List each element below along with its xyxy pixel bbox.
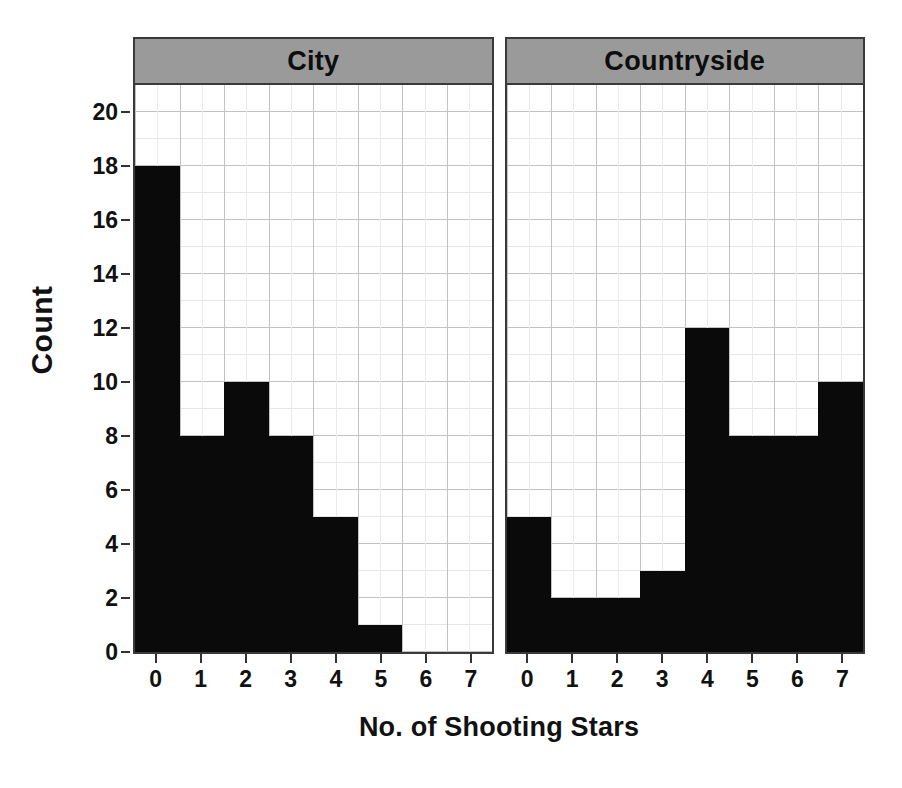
histogram-figure: Count 02468101214161820 City01234567Coun… xyxy=(0,0,902,788)
x-axis-title: No. of Shooting Stars xyxy=(133,712,865,743)
x-tick-label-countryside-1: 1 xyxy=(566,666,579,693)
gridline-vertical-6 xyxy=(425,85,426,652)
gridline-vertical-5 xyxy=(380,85,381,652)
gridline-vertical-1 xyxy=(573,85,574,652)
y-axis-title-text: Count xyxy=(25,285,59,374)
gridline-vertical-1.5 xyxy=(596,85,597,652)
x-tick-mark-countryside-5 xyxy=(751,654,753,663)
x-tick-label-countryside-5: 5 xyxy=(746,666,759,693)
gridline-vertical-2.5 xyxy=(640,85,641,652)
bar-countryside-5 xyxy=(729,436,774,652)
x-tick-mark-city-4 xyxy=(335,654,337,663)
y-tick-mark-0 xyxy=(121,651,130,653)
x-tick-mark-countryside-0 xyxy=(526,654,528,663)
facet-panel-countryside: Countryside01234567 xyxy=(505,37,866,654)
x-tick-label-city-7: 7 xyxy=(465,666,478,693)
y-tick-label-20: 20 xyxy=(92,99,118,126)
y-tick-label-6: 6 xyxy=(105,477,118,504)
x-tick-mark-city-5 xyxy=(380,654,382,663)
x-tick-label-countryside-7: 7 xyxy=(836,666,849,693)
y-tick-label-10: 10 xyxy=(92,369,118,396)
x-tick-mark-countryside-3 xyxy=(661,654,663,663)
y-tick-mark-6 xyxy=(121,489,130,491)
bar-countryside-7 xyxy=(818,382,863,652)
x-tick-label-city-3: 3 xyxy=(284,666,297,693)
y-tick-label-8: 8 xyxy=(105,423,118,450)
bar-city-1 xyxy=(180,436,225,652)
x-tick-label-city-1: 1 xyxy=(194,666,207,693)
y-tick-label-0: 0 xyxy=(105,639,118,666)
gridline-vertical-2 xyxy=(618,85,619,652)
y-axis-title: Count xyxy=(12,0,72,660)
bar-city-4 xyxy=(313,517,358,652)
y-tick-label-12: 12 xyxy=(92,315,118,342)
x-tick-mark-city-7 xyxy=(470,654,472,663)
bar-countryside-1 xyxy=(551,598,596,652)
y-tick-label-16: 16 xyxy=(92,207,118,234)
bar-countryside-3 xyxy=(640,571,685,652)
x-tick-label-countryside-6: 6 xyxy=(791,666,804,693)
bar-countryside-6 xyxy=(774,436,819,652)
y-tick-mark-8 xyxy=(121,435,130,437)
x-tick-label-city-4: 4 xyxy=(329,666,342,693)
facet-header-city: City xyxy=(133,37,494,85)
x-tick-mark-city-1 xyxy=(200,654,202,663)
y-tick-label-4: 4 xyxy=(105,531,118,558)
gridline-vertical-7.5 xyxy=(492,85,493,652)
bar-countryside-0 xyxy=(507,517,552,652)
x-tick-mark-city-2 xyxy=(245,654,247,663)
x-tick-label-countryside-4: 4 xyxy=(701,666,714,693)
y-tick-mark-20 xyxy=(121,111,130,113)
plot-area-countryside xyxy=(505,85,866,654)
y-tick-label-18: 18 xyxy=(92,153,118,180)
bar-countryside-4 xyxy=(685,328,730,652)
facet-header-label: Countryside xyxy=(604,46,765,77)
x-tick-label-countryside-2: 2 xyxy=(611,666,624,693)
bar-city-5 xyxy=(358,625,403,652)
bar-city-2 xyxy=(224,382,269,652)
bar-city-3 xyxy=(269,436,314,652)
x-tick-mark-countryside-6 xyxy=(796,654,798,663)
x-tick-mark-countryside-4 xyxy=(706,654,708,663)
x-tick-label-city-2: 2 xyxy=(239,666,252,693)
y-tick-mark-10 xyxy=(121,381,130,383)
y-tick-mark-16 xyxy=(121,219,130,221)
y-tick-label-14: 14 xyxy=(92,261,118,288)
facet-panel-city: City01234567 xyxy=(133,37,494,654)
x-tick-label-city-6: 6 xyxy=(420,666,433,693)
y-tick-mark-2 xyxy=(121,597,130,599)
y-tick-label-2: 2 xyxy=(105,585,118,612)
gridline-vertical-7.5 xyxy=(863,85,864,652)
x-tick-mark-countryside-2 xyxy=(616,654,618,663)
x-tick-mark-countryside-1 xyxy=(571,654,573,663)
gridline-vertical-5.5 xyxy=(402,85,403,652)
x-tick-label-city-0: 0 xyxy=(149,666,162,693)
x-tick-label-countryside-0: 0 xyxy=(521,666,534,693)
x-tick-mark-city-6 xyxy=(425,654,427,663)
gridline-vertical-6.5 xyxy=(447,85,448,652)
x-tick-mark-city-3 xyxy=(290,654,292,663)
gridline-vertical-3 xyxy=(662,85,663,652)
x-tick-label-countryside-3: 3 xyxy=(656,666,669,693)
y-axis-tick-group: 02468101214161820 xyxy=(84,85,130,652)
plot-area-city xyxy=(133,85,494,654)
y-tick-mark-4 xyxy=(121,543,130,545)
y-tick-mark-12 xyxy=(121,327,130,329)
x-tick-mark-countryside-7 xyxy=(841,654,843,663)
x-tick-label-city-5: 5 xyxy=(374,666,387,693)
gridline-vertical-7 xyxy=(469,85,470,652)
y-tick-mark-18 xyxy=(121,165,130,167)
bar-city-0 xyxy=(135,166,180,652)
facet-header-countryside: Countryside xyxy=(505,37,866,85)
y-tick-mark-14 xyxy=(121,273,130,275)
bar-countryside-2 xyxy=(596,598,641,652)
gridline-vertical-4.5 xyxy=(358,85,359,652)
facet-header-label: City xyxy=(287,46,339,77)
facet-panels: City01234567Countryside01234567 xyxy=(133,37,865,654)
x-tick-mark-city-0 xyxy=(155,654,157,663)
gridline-vertical-0.5 xyxy=(551,85,552,652)
